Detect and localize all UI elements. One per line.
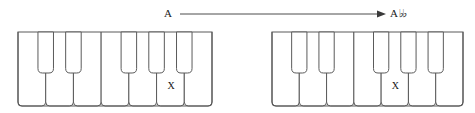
target-note-letter: A	[390, 7, 398, 19]
transposition-target-label: A♭♭	[390, 8, 406, 19]
black-key[interactable]	[428, 32, 443, 73]
transposition-source-label: A	[164, 8, 172, 19]
double-flat-icon: ♭♭	[399, 7, 406, 20]
black-key[interactable]	[401, 32, 416, 73]
black-key[interactable]	[38, 32, 54, 73]
arrow-head-icon	[377, 10, 386, 17]
black-key[interactable]	[292, 32, 307, 73]
keyboards-group	[18, 32, 463, 106]
black-key[interactable]	[66, 32, 82, 73]
target-keyboard	[272, 32, 463, 106]
transposition-arrow-group	[180, 10, 386, 17]
black-key[interactable]	[374, 32, 389, 73]
marked-key-symbol-left: X	[167, 81, 174, 91]
black-key[interactable]	[121, 32, 137, 73]
diagram-canvas: A A♭♭ X X	[0, 0, 475, 113]
source-keyboard	[18, 32, 212, 106]
black-key[interactable]	[319, 32, 334, 73]
marked-key-symbol-right: X	[392, 81, 399, 91]
black-key[interactable]	[177, 32, 193, 73]
black-key[interactable]	[149, 32, 165, 73]
